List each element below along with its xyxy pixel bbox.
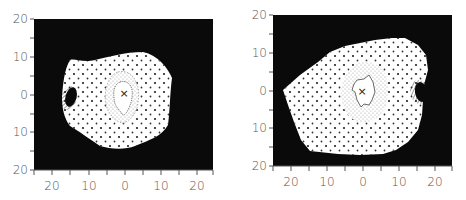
right-y-tick-20-bottom: 20: [252, 159, 267, 173]
right-x-tick-20-right: 20: [427, 175, 442, 189]
left-x-axis: [34, 170, 213, 175]
right-y-axis: [269, 15, 273, 166]
right-chart: 20 10 0 10 20 20 10 0 10 20 ×: [252, 8, 452, 189]
right-x-tick-10-right: 10: [391, 175, 406, 189]
right-x-tick-10-left: 10: [319, 175, 334, 189]
left-y-axis: [30, 19, 34, 170]
left-x-tick-20-right: 20: [189, 179, 204, 193]
right-x-axis: [273, 166, 452, 171]
left-y-tick-20-bottom: 20: [13, 163, 28, 177]
left-x-tick-10-left: 10: [81, 179, 96, 193]
left-y-tick-0: 0: [20, 88, 28, 102]
right-x-tick-0: 0: [359, 175, 367, 189]
right-y-tick-20-top: 20: [252, 8, 267, 22]
right-y-tick-0: 0: [259, 84, 267, 98]
left-y-tick-10-bottom: 10: [13, 125, 28, 139]
left-x-tick-0: 0: [121, 179, 129, 193]
right-x-tick-20-left: 20: [283, 175, 298, 189]
left-fixation-marker: ×: [119, 87, 128, 100]
right-y-tick-10-top: 10: [252, 46, 267, 60]
visual-field-figure: 20 10 0 10 20 20 10 0 10 20: [0, 0, 466, 200]
right-fixation-marker: ×: [357, 85, 366, 98]
left-y-tick-20-top: 20: [13, 12, 28, 26]
left-chart: 20 10 0 10 20 20 10 0 10 20: [13, 12, 213, 193]
left-y-tick-10-top: 10: [13, 50, 28, 64]
right-y-tick-10-bottom: 10: [252, 121, 267, 135]
left-x-tick-10-right: 10: [153, 179, 168, 193]
left-x-tick-20-left: 20: [44, 179, 59, 193]
